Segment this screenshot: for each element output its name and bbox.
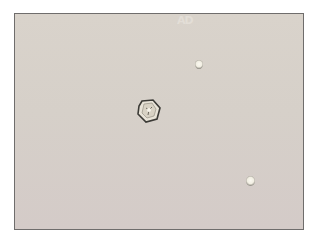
micrograph-field: AD xyxy=(14,13,304,230)
hexagonal-crystal xyxy=(136,99,162,123)
watermark: AD xyxy=(177,14,193,27)
round-body-top xyxy=(195,60,203,69)
round-body-bottom xyxy=(246,176,255,186)
